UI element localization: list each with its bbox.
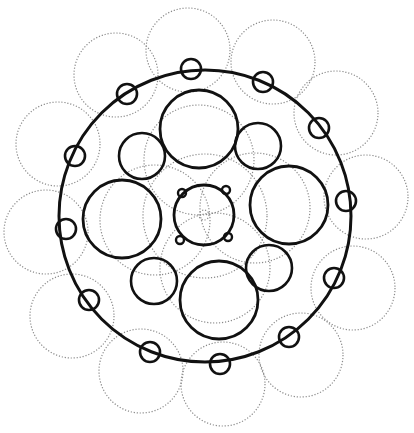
outer-ring-circle <box>59 70 351 362</box>
ring-node-6 <box>210 354 230 374</box>
medium-circle-upper-right <box>235 123 281 169</box>
large-circles <box>83 90 328 339</box>
medium-circle-lower-right <box>246 245 292 291</box>
dotted-lobe-8 <box>311 246 395 330</box>
ring-nodes <box>56 59 356 374</box>
medium-circle-upper-left <box>119 133 165 179</box>
dotted-lobe-5 <box>99 329 183 413</box>
large-circle-left <box>83 180 161 258</box>
dotted-lobe-4 <box>30 274 114 358</box>
large-circle-top <box>160 90 238 168</box>
circle-packing-diagram <box>0 0 414 433</box>
medium-circle-lower-left <box>131 258 177 304</box>
large-circle-right <box>250 166 328 244</box>
dotted-lobe-11 <box>231 20 315 104</box>
ring-node-9 <box>336 191 356 211</box>
outer-ring <box>59 70 351 362</box>
dotted-lobe-2 <box>16 102 100 186</box>
dotted-lobe-1 <box>74 33 158 117</box>
ring-node-10 <box>309 118 329 138</box>
